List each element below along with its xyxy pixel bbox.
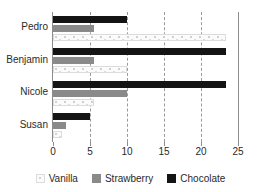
bar-group-benjamin — [53, 48, 238, 73]
bar-group-susan — [53, 113, 238, 138]
plot-right-border — [238, 12, 239, 142]
category-label-pedro: Pedro — [21, 21, 48, 32]
x-tick-label-0: 0 — [41, 146, 65, 157]
legend-label-strawberry: Strawberry — [105, 173, 153, 184]
category-label-benjamin: Benjamin — [6, 54, 48, 65]
bar-susan-chocolate — [53, 113, 90, 120]
legend-item-vanilla[interactable]: Vanilla — [36, 173, 78, 184]
legend-swatch-vanilla-icon — [36, 174, 45, 183]
bar-benjamin-vanilla — [53, 66, 127, 73]
bar-nicole-strawberry — [53, 90, 127, 97]
category-label-nicole: Nicole — [20, 86, 48, 97]
bar-pedro-chocolate — [53, 16, 127, 23]
bar-pedro-vanilla — [53, 34, 226, 41]
x-tick-label-10: 10 — [115, 146, 139, 157]
legend-label-vanilla: Vanilla — [49, 173, 78, 184]
bar-benjamin-chocolate — [53, 48, 226, 55]
bar-benjamin-strawberry — [53, 57, 94, 64]
legend-swatch-strawberry-icon — [92, 174, 101, 183]
legend-item-chocolate[interactable]: Chocolate — [167, 173, 225, 184]
bar-pedro-strawberry — [53, 25, 94, 32]
bar-susan-vanilla — [53, 131, 62, 138]
bar-susan-strawberry — [53, 122, 66, 129]
bar-nicole-chocolate — [53, 81, 226, 88]
x-tick-label-25: 25 — [226, 146, 250, 157]
category-label-susan: Susan — [20, 119, 48, 130]
legend-item-strawberry[interactable]: Strawberry — [92, 173, 153, 184]
legend-label-chocolate: Chocolate — [180, 173, 225, 184]
bar-chart: PedroBenjaminNicoleSusan 0510152025 Vani… — [0, 0, 261, 192]
bar-nicole-vanilla — [53, 99, 94, 106]
x-tick-label-15: 15 — [152, 146, 176, 157]
chart-legend: VanillaStrawberryChocolate — [0, 170, 261, 186]
bar-group-nicole — [53, 81, 238, 106]
bar-group-pedro — [53, 16, 238, 41]
x-tick-label-20: 20 — [189, 146, 213, 157]
x-tick-label-5: 5 — [78, 146, 102, 157]
legend-swatch-chocolate-icon — [167, 174, 176, 183]
